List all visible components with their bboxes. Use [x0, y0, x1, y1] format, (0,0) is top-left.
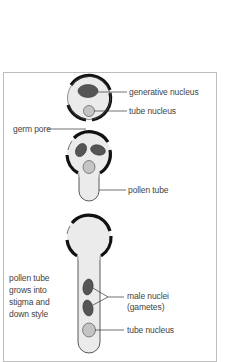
pollen-grain-stage-1 [47, 75, 127, 129]
label-pollen-tube: pollen tube [128, 185, 169, 195]
label-tube-growth-3: stigma and [9, 297, 50, 307]
generative-nucleus [78, 85, 98, 98]
label-tube-growth-2: grows into [9, 285, 47, 295]
tube-nucleus [83, 161, 95, 174]
label-tube-nucleus-1: tube nucleus [129, 106, 176, 116]
tube-nucleus [84, 106, 95, 117]
label-tube-nucleus-2: tube nucleus [127, 325, 174, 335]
label-tube-growth-4: down style [9, 309, 48, 319]
pollen-grain-stage-2 [67, 132, 126, 201]
label-generative-nucleus: generative nucleus [129, 87, 199, 97]
label-tube-growth-1: pollen tube [9, 273, 50, 283]
label-male-nuclei-2: (gametes) [127, 302, 164, 312]
label-male-nuclei-1: male nuclei [127, 291, 169, 301]
label-germ-pore: germ pore [13, 124, 51, 134]
pollen-grain-stage-3 [67, 215, 124, 353]
tube-nucleus [83, 323, 96, 337]
